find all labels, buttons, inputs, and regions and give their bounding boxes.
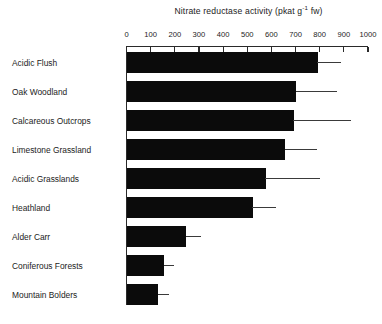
bar: [127, 255, 164, 276]
category-label: Limestone Grassland: [12, 145, 130, 155]
category-label: Oak Woodland: [12, 87, 130, 97]
x-tick-label: 400: [217, 30, 230, 39]
bar-row: Acidic Flush: [0, 52, 382, 73]
x-tick-label: 200: [168, 30, 181, 39]
error-bar: [158, 294, 169, 295]
error-bar: [186, 236, 202, 237]
bar-row: Coniferous Forests: [0, 255, 382, 276]
bar: [127, 139, 285, 160]
error-bar: [164, 265, 174, 266]
bar: [127, 168, 266, 189]
x-tick-label: 900: [338, 30, 351, 39]
chart-container: Nitrate reductase activity (pkat g-1 fw)…: [0, 0, 382, 324]
x-tick-label: 800: [313, 30, 326, 39]
x-tick-label: 700: [289, 30, 302, 39]
category-label: Calcareous Outcrops: [12, 116, 130, 126]
bar-row: Mountain Bolders: [0, 284, 382, 305]
bar-row: Limestone Grassland: [0, 139, 382, 160]
bar-row: Heathland: [0, 197, 382, 218]
error-bar: [317, 62, 341, 63]
x-tick-label: 0: [124, 30, 128, 39]
x-tick-label: 1000: [360, 30, 377, 39]
bar: [127, 284, 158, 305]
category-label: Alder Carr: [12, 232, 130, 242]
error-bar: [293, 120, 351, 121]
x-tick-label: 600: [265, 30, 278, 39]
error-bar: [296, 91, 337, 92]
category-label: Acidic Grasslands: [12, 174, 130, 184]
category-label: Coniferous Forests: [12, 261, 130, 271]
category-label: Mountain Bolders: [12, 290, 130, 300]
bar: [127, 226, 186, 247]
error-bar: [285, 149, 318, 150]
bar-row: Oak Woodland: [0, 81, 382, 102]
chart-title-tail: fw): [308, 6, 322, 16]
chart-title: Nitrate reductase activity (pkat g-1 fw): [126, 6, 371, 16]
bar-row: Acidic Grasslands: [0, 168, 382, 189]
bar: [127, 110, 294, 131]
bar-row: Calcareous Outcrops: [0, 110, 382, 131]
category-label: Acidic Flush: [12, 58, 130, 68]
bar: [127, 197, 253, 218]
bar: [127, 81, 296, 102]
x-tick-label: 300: [193, 30, 206, 39]
x-tick-label: 500: [241, 30, 254, 39]
error-bar: [252, 207, 276, 208]
bar: [127, 52, 318, 73]
error-bar: [265, 178, 319, 179]
x-tick-label: 100: [144, 30, 157, 39]
bar-row: Alder Carr: [0, 226, 382, 247]
chart-title-main: Nitrate reductase activity (pkat g: [174, 6, 302, 16]
x-axis-tick-labels: 01002003004005006007008009001000: [0, 30, 382, 42]
category-label: Heathland: [12, 203, 130, 213]
